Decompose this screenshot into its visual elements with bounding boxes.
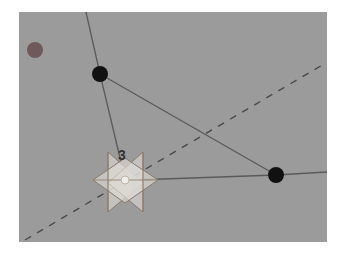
vertex-3-label: 3 xyxy=(118,148,126,162)
vertex-2[interactable] xyxy=(268,167,284,183)
marker-dot[interactable] xyxy=(27,42,43,58)
3d-viewport[interactable]: 3 xyxy=(19,12,327,242)
scene-canvas[interactable] xyxy=(19,12,327,242)
edge-line-top[interactable] xyxy=(86,12,100,74)
dashed-axis-line xyxy=(25,64,324,240)
vertex-1[interactable] xyxy=(92,66,108,82)
